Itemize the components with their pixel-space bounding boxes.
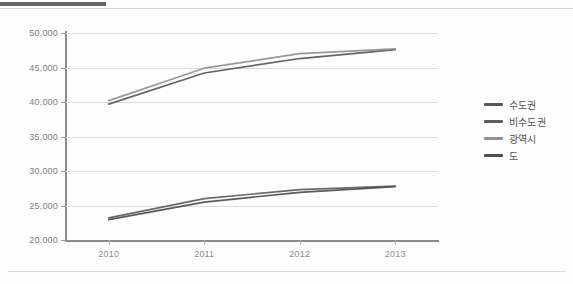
top-light-rule (0, 8, 573, 9)
series-lines (66, 33, 438, 240)
legend-item-4[interactable]: 도 (484, 147, 570, 164)
x-tick-label: 2010 (79, 249, 139, 259)
y-tick-label: 50,000 (6, 28, 58, 38)
x-tick-label: 2011 (174, 249, 234, 259)
y-tick-label: 30,000 (6, 166, 58, 176)
y-tick-label: 20,000 (6, 235, 58, 245)
plot-area (66, 33, 438, 240)
series-line-3 (109, 49, 395, 101)
y-tick-label: 40,000 (6, 97, 58, 107)
y-tick (61, 240, 66, 241)
x-tick-label: 2013 (365, 249, 425, 259)
figure-container: 50,00045,00040,00035,00030,00025,00020,0… (0, 0, 573, 284)
y-axis-labels: 50,00045,00040,00035,00030,00025,00020,0… (0, 10, 58, 268)
legend-swatch-icon (484, 120, 503, 123)
top-dark-rule (0, 2, 106, 6)
x-tick (395, 240, 396, 245)
series-line-4 (109, 187, 395, 220)
y-tick-label: 35,000 (6, 132, 58, 142)
line-chart: 50,00045,00040,00035,00030,00025,00020,0… (0, 10, 573, 268)
legend-label: 비수도권 (509, 114, 546, 129)
legend-label: 광역시 (509, 131, 537, 146)
legend-swatch-icon (484, 137, 503, 140)
x-tick-label: 2012 (270, 249, 330, 259)
legend-item-1[interactable]: 수도권 (484, 96, 570, 113)
series-line-2 (109, 186, 395, 218)
legend-item-2[interactable]: 비수도권 (484, 113, 570, 130)
legend-label: 도 (509, 148, 518, 163)
bottom-light-rule (8, 271, 565, 272)
x-tick (109, 240, 110, 245)
legend-swatch-icon (484, 154, 503, 157)
series-line-1 (109, 50, 395, 105)
chart-legend: 수도권비수도권광역시도 (484, 96, 570, 164)
legend-item-3[interactable]: 광역시 (484, 130, 570, 147)
y-tick-label: 45,000 (6, 63, 58, 73)
x-tick (204, 240, 205, 245)
legend-swatch-icon (484, 103, 503, 106)
x-axis-line (65, 240, 439, 242)
legend-label: 수도권 (509, 97, 537, 112)
y-tick-label: 25,000 (6, 201, 58, 211)
x-tick (300, 240, 301, 245)
